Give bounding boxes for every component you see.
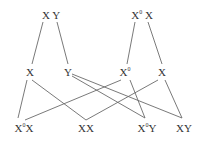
parent-1-label: X Y [42, 10, 60, 21]
gamete-x-left: X [26, 67, 34, 78]
edge-p2-g3 [127, 22, 135, 64]
gamete-x-right: X [158, 67, 166, 78]
gamete-y: Y [64, 67, 72, 78]
offspring-xy: XY [176, 123, 192, 134]
parent-2-label: X0 X [131, 10, 153, 21]
gamete-x0: X0 [120, 67, 131, 78]
offspring-x0y: X0Y [138, 123, 157, 134]
offspring-x0x: X0X [15, 123, 34, 134]
edge-p1-g1 [32, 22, 43, 64]
edge-g3-o3 [130, 80, 145, 118]
edge-g2-o3 [72, 76, 145, 118]
edge-p2-g4 [148, 22, 162, 64]
offspring-xx: XX [78, 123, 94, 134]
edge-g1-o1 [18, 80, 27, 118]
edge-p1-g2 [57, 22, 68, 64]
edge-g4-o2 [86, 80, 158, 120]
